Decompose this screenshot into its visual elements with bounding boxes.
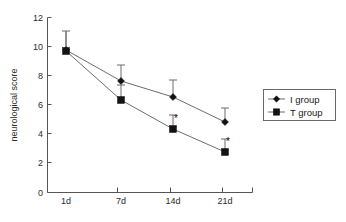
- y-axis-ticks: [48, 18, 52, 193]
- y-tick-label-10: 10: [33, 42, 43, 52]
- y-tick-label-2: 2: [38, 158, 43, 168]
- y-tick-label-12: 12: [33, 13, 43, 23]
- neurological-score-line-chart: 12 10 8 6 4 2 0 neurological score 1d 7d…: [0, 0, 346, 222]
- legend-label-t-group: T group: [290, 107, 323, 118]
- x-tick-label-14d: 14d: [165, 196, 180, 206]
- x-tick-label-7d: 7d: [116, 196, 126, 206]
- y-tick-label-0: 0: [38, 188, 43, 198]
- y-axis-title: neurological score: [9, 68, 19, 141]
- error-bars-t-group: [66, 31, 229, 152]
- series-line-t-group: [66, 51, 225, 152]
- chart-legend: I group T group: [264, 90, 336, 121]
- y-tick-label-4: 4: [38, 129, 43, 139]
- series-line-i-group: [66, 50, 225, 122]
- significance-star-14d: *: [174, 113, 178, 124]
- error-bars-i-group: [62, 31, 229, 122]
- y-tick-label-6: 6: [38, 100, 43, 110]
- chart-figure: 12 10 8 6 4 2 0 neurological score 1d 7d…: [0, 0, 346, 222]
- axis-spines: [48, 18, 253, 193]
- x-tick-label-21d: 21d: [217, 196, 232, 206]
- y-tick-label-8: 8: [38, 71, 43, 81]
- x-axis-ticks: [118, 188, 253, 193]
- legend-marker-square-icon: [273, 109, 279, 115]
- significance-star-21d: *: [226, 136, 230, 147]
- data-markers-t-group: [63, 48, 229, 156]
- legend-label-i-group: I group: [290, 94, 320, 105]
- x-tick-label-1d: 1d: [61, 196, 71, 206]
